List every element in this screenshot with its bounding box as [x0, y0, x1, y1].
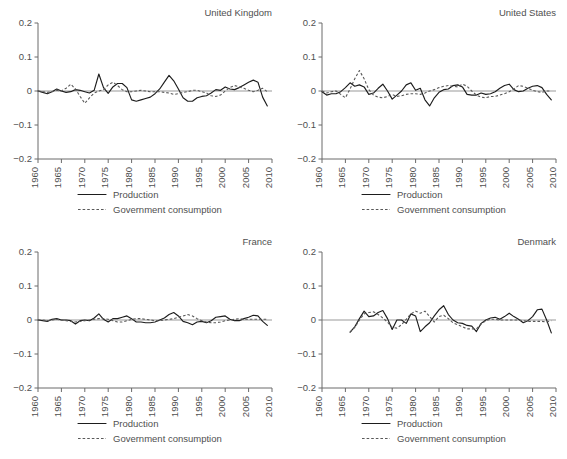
panel-france: France0.20.10−0.1−0.21960196519701975198… [0, 229, 283, 458]
legend-label-production: Production [113, 418, 158, 429]
y-tick-label: 0.1 [19, 51, 32, 62]
chart-svg: Denmark0.20.10−0.1−0.2196019651970197519… [284, 229, 567, 458]
y-tick-label: −0.2 [13, 153, 32, 164]
x-tick-label: 1980 [407, 396, 418, 417]
y-tick-label: −0.2 [297, 153, 316, 164]
x-tick-label: 2005 [240, 396, 251, 417]
x-tick-label: 1990 [453, 167, 464, 188]
legend-label-production: Production [397, 418, 442, 429]
x-tick-label: 1960 [313, 167, 324, 188]
y-tick-label: 0.1 [303, 280, 316, 291]
x-tick-label: 2010 [263, 396, 274, 417]
x-tick-label: 1960 [313, 396, 324, 417]
y-tick-label: −0.1 [297, 119, 316, 130]
legend-label-government-consumption: Government consumption [113, 433, 222, 444]
y-tick-label: −0.2 [13, 382, 32, 393]
x-tick-label: 1980 [407, 167, 418, 188]
x-tick-label: 2010 [263, 167, 274, 188]
x-tick-label: 1965 [52, 396, 63, 417]
x-tick-label: 1990 [169, 396, 180, 417]
x-tick-label: 1975 [99, 396, 110, 417]
chart-svg: France0.20.10−0.1−0.21960196519701975198… [0, 229, 283, 458]
series-line-production [38, 313, 267, 326]
x-tick-label: 1965 [52, 167, 63, 188]
panel-title: France [242, 236, 272, 247]
y-tick-label: −0.2 [297, 382, 316, 393]
y-tick-label: 0.2 [303, 246, 316, 257]
y-tick-label: −0.1 [297, 348, 316, 359]
panel-denmark: Denmark0.20.10−0.1−0.2196019651970197519… [284, 229, 567, 458]
x-tick-label: 1995 [477, 167, 488, 188]
x-tick-label: 1970 [76, 167, 87, 188]
x-tick-label: 2000 [216, 396, 227, 417]
x-tick-label: 1985 [430, 396, 441, 417]
y-tick-label: 0 [27, 314, 32, 325]
x-tick-label: 1970 [76, 396, 87, 417]
x-tick-label: 1975 [383, 167, 394, 188]
x-tick-label: 2010 [547, 396, 558, 417]
x-tick-label: 1970 [360, 167, 371, 188]
x-tick-label: 1985 [146, 167, 157, 188]
x-tick-label: 1990 [453, 396, 464, 417]
y-tick-label: −0.1 [13, 119, 32, 130]
x-tick-label: 2000 [500, 396, 511, 417]
legend-label-production: Production [113, 189, 158, 200]
x-tick-label: 1995 [193, 167, 204, 188]
y-tick-label: 0.1 [19, 280, 32, 291]
x-tick-label: 2005 [240, 167, 251, 188]
x-tick-label: 1975 [383, 396, 394, 417]
legend-label-production: Production [397, 189, 442, 200]
panel-united-states: United States0.20.10−0.1−0.2196019651970… [284, 0, 567, 229]
x-tick-label: 1990 [169, 167, 180, 188]
x-tick-label: 1995 [477, 396, 488, 417]
x-tick-label: 2000 [500, 167, 511, 188]
series-line-production [350, 306, 551, 333]
y-tick-label: 0 [27, 85, 32, 96]
panel-title: United Kingdom [204, 7, 272, 18]
x-tick-label: 1985 [430, 167, 441, 188]
x-tick-label: 1965 [336, 396, 347, 417]
series-line-government-consumption [38, 315, 267, 323]
y-tick-label: 0.2 [19, 246, 32, 257]
legend-label-government-consumption: Government consumption [397, 204, 506, 215]
panel-title: Denmark [517, 236, 556, 247]
x-tick-label: 1970 [360, 396, 371, 417]
chart-svg: United Kingdom0.20.10−0.1−0.219601965197… [0, 0, 283, 229]
x-tick-label: 2000 [216, 167, 227, 188]
figure-root: United Kingdom0.20.10−0.1−0.219601965197… [0, 0, 567, 459]
series-line-government-consumption [38, 82, 267, 103]
y-tick-label: 0 [311, 85, 316, 96]
y-tick-label: 0.1 [303, 51, 316, 62]
legend-label-government-consumption: Government consumption [397, 433, 506, 444]
x-tick-label: 1975 [99, 167, 110, 188]
x-tick-label: 1960 [29, 396, 40, 417]
y-tick-label: 0.2 [303, 17, 316, 28]
y-tick-label: −0.1 [13, 348, 32, 359]
y-tick-label: 0.2 [19, 17, 32, 28]
x-tick-label: 2005 [524, 396, 535, 417]
x-tick-label: 1980 [123, 396, 134, 417]
panel-united-kingdom: United Kingdom0.20.10−0.1−0.219601965197… [0, 0, 283, 229]
x-tick-label: 2010 [547, 167, 558, 188]
series-line-government-consumption [322, 71, 551, 98]
series-line-production [38, 74, 267, 106]
x-tick-label: 1980 [123, 167, 134, 188]
legend-label-government-consumption: Government consumption [113, 204, 222, 215]
x-tick-label: 1985 [146, 396, 157, 417]
x-tick-label: 1995 [193, 396, 204, 417]
x-tick-label: 1960 [29, 167, 40, 188]
x-tick-label: 2005 [524, 167, 535, 188]
x-tick-label: 1965 [336, 167, 347, 188]
y-tick-label: 0 [311, 314, 316, 325]
panel-title: United States [499, 7, 556, 18]
chart-svg: United States0.20.10−0.1−0.2196019651970… [284, 0, 567, 229]
